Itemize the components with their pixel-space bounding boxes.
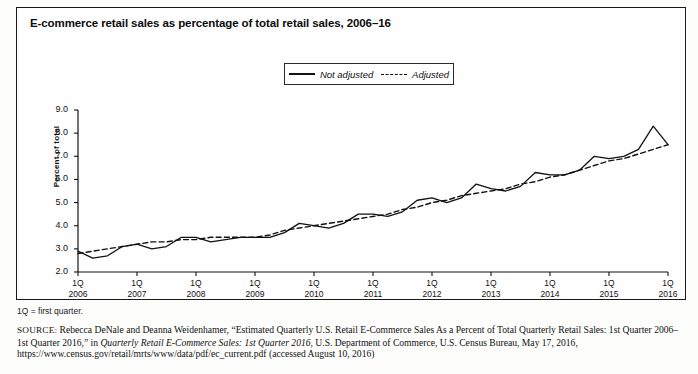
x-tick-year: 2014 (530, 289, 570, 300)
x-tick-year: 2011 (353, 289, 393, 300)
x-tick-label: 1Q2012 (412, 278, 452, 300)
legend-label-adjusted: Adjusted (412, 69, 449, 80)
x-tick-label: 1Q2014 (530, 278, 570, 300)
x-tick-label: 1Q2011 (353, 278, 393, 300)
y-tick-label: 6.0 (34, 173, 68, 183)
x-tick-label: 1Q2015 (589, 278, 629, 300)
y-tick-label: 9.0 (34, 104, 68, 114)
x-tick-quarter: 1Q (471, 278, 511, 289)
x-tick-label: 1Q2008 (176, 278, 216, 300)
x-tick-quarter: 1Q (235, 278, 275, 289)
y-tick-label: 5.0 (34, 197, 68, 207)
x-tick-quarter: 1Q (176, 278, 216, 289)
figure-border (16, 7, 686, 300)
x-tick-quarter: 1Q (353, 278, 393, 289)
x-tick-quarter: 1Q (589, 278, 629, 289)
page-title: E-commerce retail sales as percentage of… (30, 17, 391, 29)
x-tick-year: 2009 (235, 289, 275, 300)
legend-line-dashed-icon (381, 74, 407, 75)
figure-page: E-commerce retail sales as percentage of… (0, 0, 698, 374)
y-tick-label: 4.0 (34, 220, 68, 230)
x-tick-label: 1Q2016 (648, 278, 688, 300)
x-tick-quarter: 1Q (648, 278, 688, 289)
legend-label-not-adjusted: Not adjusted (320, 69, 373, 80)
x-tick-year: 2013 (471, 289, 511, 300)
x-tick-label: 1Q2013 (471, 278, 511, 300)
footnote-first-quarter: 1Q = first quarter. (17, 306, 83, 316)
x-tick-quarter: 1Q (294, 278, 334, 289)
x-tick-year: 2006 (58, 289, 98, 300)
source-text-italic: Quarterly Retail E-Commerce Sales: 1st Q… (100, 337, 310, 348)
legend-item-not-adjusted: Not adjusted (289, 69, 373, 80)
x-tick-year: 2010 (294, 289, 334, 300)
x-tick-quarter: 1Q (530, 278, 570, 289)
x-tick-label: 1Q2006 (58, 278, 98, 300)
source-note: SOURCE: Rebecca DeNale and Deanna Weiden… (17, 324, 681, 360)
y-tick-label: 7.0 (34, 150, 68, 160)
x-tick-label: 1Q2010 (294, 278, 334, 300)
legend-line-solid-icon (289, 73, 315, 74)
x-tick-year: 2012 (412, 289, 452, 300)
chart-legend: Not adjusted Adjusted (284, 63, 454, 85)
x-tick-quarter: 1Q (58, 278, 98, 289)
x-tick-year: 2008 (176, 289, 216, 300)
y-tick-label: 2.0 (34, 266, 68, 276)
x-tick-year: 2007 (117, 289, 157, 300)
x-tick-label: 1Q2009 (235, 278, 275, 300)
x-tick-label: 1Q2007 (117, 278, 157, 300)
source-label: SOURCE: (17, 325, 57, 335)
y-tick-label: 8.0 (34, 127, 68, 137)
y-tick-label: 3.0 (34, 243, 68, 253)
x-tick-quarter: 1Q (117, 278, 157, 289)
x-tick-quarter: 1Q (412, 278, 452, 289)
x-tick-year: 2016 (648, 289, 688, 300)
x-tick-year: 2015 (589, 289, 629, 300)
legend-item-adjusted: Adjusted (381, 69, 449, 80)
